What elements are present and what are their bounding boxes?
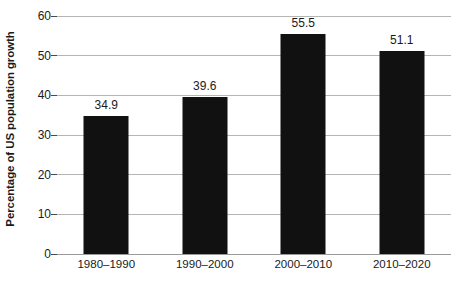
bar-group: 34.9 [57, 16, 156, 254]
y-axis-tick-label: 40 [7, 89, 51, 101]
bar[interactable] [84, 116, 129, 254]
y-axis-tick-label: 30 [7, 129, 51, 141]
bar-chart: Percentage of US population growth 01020… [0, 0, 461, 288]
bar[interactable] [379, 51, 424, 254]
bar-value-label: 39.6 [193, 80, 216, 92]
y-axis-tick-label: 60 [7, 10, 51, 22]
y-axis-tick-labels: 0102030405060 [0, 16, 51, 254]
x-axis-tick-label: 2000–2010 [274, 259, 332, 271]
bar[interactable] [281, 34, 326, 254]
y-axis-tick-label: 0 [7, 248, 51, 260]
y-axis-tick-label: 50 [7, 50, 51, 62]
bar-group: 55.5 [254, 16, 353, 254]
x-axis-tick-label: 2010–2020 [373, 259, 431, 271]
x-axis-tick-label: 1980–1990 [77, 259, 135, 271]
y-axis-tick-label: 20 [7, 169, 51, 181]
x-axis-tick-labels: 1980–19901990–20002000–20102010–2020 [57, 259, 451, 279]
bar-value-label: 51.1 [390, 34, 413, 46]
bar-value-label: 34.9 [95, 99, 118, 111]
bar-group: 51.1 [353, 16, 452, 254]
x-axis-tick-label: 1990–2000 [176, 259, 234, 271]
bar-value-label: 55.5 [292, 17, 315, 29]
bar-group: 39.6 [156, 16, 255, 254]
bar[interactable] [182, 97, 227, 254]
y-axis-tick-label: 10 [7, 208, 51, 220]
plot-area: 34.939.655.551.1 [57, 16, 451, 254]
